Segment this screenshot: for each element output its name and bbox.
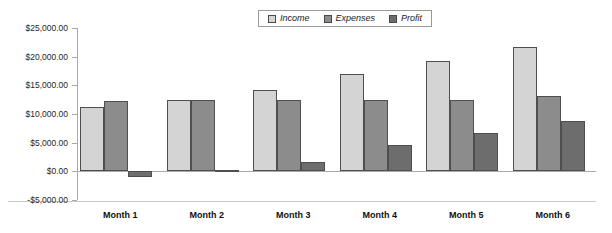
x-axis-category-label: Month 1 bbox=[77, 211, 164, 220]
y-axis-tick bbox=[72, 200, 77, 201]
bar-expenses bbox=[104, 101, 128, 172]
y-axis-tick bbox=[72, 143, 77, 144]
y-axis-tick bbox=[72, 171, 77, 172]
bar-profit bbox=[561, 121, 585, 171]
bar-expenses bbox=[364, 100, 388, 171]
y-axis-tick bbox=[72, 85, 77, 86]
bar-expenses bbox=[537, 96, 561, 171]
bar-income bbox=[253, 90, 277, 171]
x-axis-category-label: Month 3 bbox=[250, 211, 337, 220]
x-axis-category-label: Month 5 bbox=[423, 211, 510, 220]
y-axis-tick-label: $15,000.00 bbox=[0, 81, 68, 90]
bar-income bbox=[340, 74, 364, 171]
bar-income bbox=[80, 107, 104, 172]
x-axis-category-label: Month 2 bbox=[164, 211, 251, 220]
bar-chart: Income Expenses Profit $25,000.00$20,000… bbox=[0, 0, 612, 233]
bar-profit bbox=[128, 171, 152, 177]
x-axis-category-label: Month 6 bbox=[510, 211, 597, 220]
y-axis-line bbox=[77, 28, 78, 200]
y-axis-tick-label: $20,000.00 bbox=[0, 53, 68, 62]
bar-expenses bbox=[450, 100, 474, 171]
y-axis-tick bbox=[72, 28, 77, 29]
bar-income bbox=[513, 47, 537, 171]
x-axis-category-label: Month 4 bbox=[337, 211, 424, 220]
bar-profit bbox=[215, 170, 239, 172]
bar-income bbox=[167, 100, 191, 172]
y-axis-tick-label: $0.00 bbox=[0, 167, 68, 176]
y-axis-tick bbox=[72, 114, 77, 115]
chart-bottom-rule bbox=[8, 201, 596, 202]
y-axis-tick-label: $25,000.00 bbox=[0, 24, 68, 33]
bar-profit bbox=[388, 145, 412, 171]
y-axis-tick bbox=[72, 57, 77, 58]
plot-area: $25,000.00$20,000.00$15,000.00$10,000.00… bbox=[0, 0, 612, 233]
y-axis-tick-label: $10,000.00 bbox=[0, 110, 68, 119]
y-axis-tick-label: -$5,000.00 bbox=[0, 196, 68, 205]
bar-profit bbox=[301, 162, 325, 172]
bar-income bbox=[426, 61, 450, 171]
bar-expenses bbox=[277, 100, 301, 171]
y-axis-tick-label: $5,000.00 bbox=[0, 139, 68, 148]
bar-profit bbox=[474, 133, 498, 171]
bar-expenses bbox=[191, 100, 215, 171]
zero-baseline bbox=[77, 171, 596, 172]
